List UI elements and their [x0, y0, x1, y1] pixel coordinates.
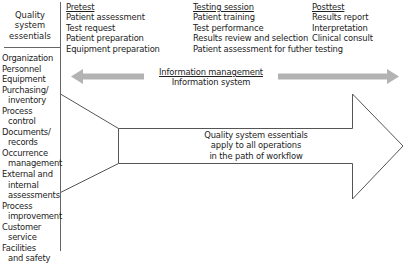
phase-item: Test request: [66, 23, 160, 33]
item-text: service: [2, 232, 62, 243]
phase-item: Patient assessment for futher testing: [193, 44, 343, 54]
header-line: system: [2, 20, 58, 30]
phase-title: Posttest: [312, 2, 373, 12]
essential-facilities: Facilities and safety: [2, 243, 62, 264]
phase-posttest: Posttest Results report Interpretation C…: [312, 2, 373, 44]
phase-item: Results report: [312, 12, 373, 22]
information-title: Information management: [146, 67, 276, 77]
essential-process-improvement: Process improvement: [2, 201, 62, 222]
item-text: and safety: [2, 253, 62, 264]
essential-customer-service: Customer service: [2, 222, 62, 243]
item-text: internal: [2, 180, 62, 191]
item-text: Process: [2, 106, 62, 117]
item-text: Equipment: [2, 74, 62, 85]
item-text: records: [2, 137, 62, 148]
information-management-label: Information management Information syste…: [146, 67, 276, 88]
phase-item: Patient preparation: [66, 33, 160, 43]
item-text: control: [2, 116, 62, 127]
phase-item: Interpretation: [312, 23, 373, 33]
item-text: inventory: [2, 95, 62, 106]
item-text: assessments: [2, 190, 62, 201]
essential-personnel: Personnel: [2, 64, 62, 75]
quality-essentials-list: Organization Personnel Equipment Purchas…: [2, 53, 62, 264]
phase-item: Patient assessment: [66, 12, 160, 22]
phase-item: Equipment preparation: [66, 44, 160, 54]
workflow-line: Quality system essentials: [166, 130, 346, 140]
essential-purchasing: Purchasing/ inventory: [2, 85, 62, 106]
essential-occurrence: Occurrence management: [2, 148, 62, 169]
item-text: Purchasing/: [2, 85, 62, 96]
item-text: Occurrence: [2, 148, 62, 159]
item-text: Documents/: [2, 127, 62, 138]
quality-system-essentials-header: Quality system essentials: [2, 10, 58, 41]
workflow-line: in the path of workflow: [166, 151, 346, 161]
phase-title: Pretest: [66, 2, 160, 12]
information-subtitle: Information system: [146, 77, 276, 87]
item-text: Organization: [2, 53, 62, 64]
item-text: External and: [2, 169, 62, 180]
essential-equipment: Equipment: [2, 74, 62, 85]
phase-pretest: Pretest Patient assessment Test request …: [66, 2, 160, 54]
header-line: Quality: [2, 10, 58, 20]
item-text: Process: [2, 201, 62, 212]
item-text: improvement: [2, 211, 62, 222]
header-line: essentials: [2, 31, 58, 41]
workflow-arrow-text: Quality system essentials apply to all o…: [166, 130, 346, 161]
essential-process-control: Process control: [2, 106, 62, 127]
essential-organization: Organization: [2, 53, 62, 64]
essential-assessments: External and internal assessments: [2, 169, 62, 201]
item-text: Personnel: [2, 64, 62, 75]
item-text: Facilities: [2, 243, 62, 254]
item-text: Customer: [2, 222, 62, 233]
phase-item: Clinical consult: [312, 33, 373, 43]
item-text: management: [2, 158, 62, 169]
essential-documents: Documents/ records: [2, 127, 62, 148]
workflow-line: apply to all operations: [166, 140, 346, 150]
